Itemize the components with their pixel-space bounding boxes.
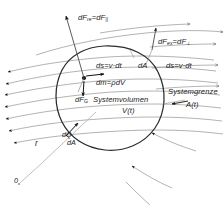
label-system-boundary: Systemgrenze (168, 88, 218, 96)
force-gravity-subscript: G (84, 98, 88, 104)
streamline (152, 133, 196, 151)
force-parallel-subscript-2: || (105, 16, 108, 22)
label-heat-flux: dQ dA (62, 131, 76, 148)
label-origin: 0 (14, 177, 18, 185)
label-system-volume: Systemvolumen (93, 96, 148, 104)
label-system-boundary-symbol: A(t) (186, 101, 199, 109)
label-force-parallel: dFre=dF|| (78, 14, 108, 22)
streamline (9, 117, 222, 131)
force-gravity-symbol: dF (75, 95, 84, 104)
streamline (36, 31, 223, 55)
label-system-volume-symbol: V(t) (122, 107, 135, 115)
force-perp-equals: =dF (173, 37, 187, 46)
label-radius: r (35, 140, 38, 149)
streamline (14, 130, 223, 143)
gravity-vector-dFG (83, 81, 84, 96)
heat-flux-denominator: dA (62, 139, 76, 147)
physics-diagram-figure: dFre=dF|| dFex=dF⊥ ds=v·dt dA ds=v·dt dm… (0, 0, 224, 214)
force-perp-symbol: dF (158, 37, 167, 46)
force-parallel-equals: =dF (92, 13, 106, 22)
label-mass-element: dm=ρdV (96, 79, 125, 87)
streamline (126, 182, 150, 205)
force-parallel-symbol: dF (78, 13, 87, 22)
label-force-gravity: dFG (75, 96, 88, 104)
displacement-vector-ds (86, 74, 104, 76)
origin-point (18, 183, 20, 185)
label-ds-right: ds=v·dt (166, 62, 192, 70)
streamline (132, 166, 172, 188)
streamline (100, 24, 190, 33)
label-ds-left: ds=v·dt (96, 62, 122, 70)
area-element-leader (130, 50, 134, 58)
label-area-element: dA (138, 62, 148, 70)
label-force-perpendicular: dFex=dF⊥ (158, 38, 190, 46)
force-parallel-vector (66, 16, 84, 78)
force-perp-subscript-2: ⊥ (186, 40, 190, 46)
